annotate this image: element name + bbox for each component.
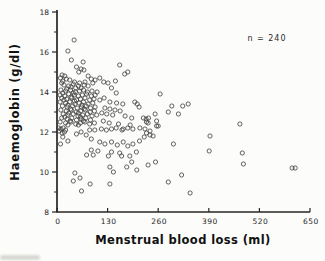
data-point: [103, 142, 107, 146]
data-point: [146, 163, 150, 167]
data-point: [89, 137, 93, 141]
data-point: [158, 92, 162, 96]
data-point: [98, 98, 102, 102]
data-point: [95, 113, 99, 117]
data-point: [72, 38, 76, 42]
caption-fragment-smudge: [0, 255, 40, 260]
data-point: [176, 112, 180, 116]
data-point: [74, 65, 78, 69]
data-point: [79, 189, 83, 193]
data-point: [207, 149, 211, 153]
data-point: [108, 100, 112, 104]
scatter-figure: 810121416180130260390520650 n = 240 Haem…: [0, 0, 325, 261]
x-tick-label: 0: [55, 217, 60, 226]
data-point: [81, 60, 85, 64]
data-point: [126, 144, 130, 148]
data-point: [92, 121, 96, 125]
data-point: [125, 165, 129, 169]
data-point: [153, 160, 157, 164]
data-point: [121, 140, 125, 144]
data-point: [115, 143, 119, 147]
data-point: [109, 150, 113, 154]
data-point: [74, 132, 78, 136]
data-point: [85, 153, 89, 157]
data-point: [71, 179, 75, 183]
y-tick-label: 12: [39, 128, 49, 137]
data-point: [93, 128, 97, 132]
data-point: [77, 70, 81, 74]
data-point: [131, 142, 135, 146]
data-point: [100, 111, 104, 115]
data-point: [78, 176, 82, 180]
data-point: [166, 110, 170, 114]
data-point: [66, 139, 70, 143]
data-point: [74, 118, 78, 122]
data-point: [188, 191, 192, 195]
data-point: [102, 80, 106, 84]
data-point: [180, 173, 184, 177]
data-point: [58, 142, 62, 146]
x-tick-label: 130: [101, 217, 117, 226]
data-point: [83, 108, 87, 112]
data-point: [88, 106, 92, 110]
y-tick-label: 10: [39, 168, 49, 177]
data-point: [91, 101, 95, 105]
data-point: [121, 102, 125, 106]
data-point: [106, 81, 110, 85]
data-point: [111, 170, 115, 174]
data-point: [238, 122, 242, 126]
data-point: [109, 86, 113, 90]
data-point: [74, 122, 78, 126]
data-point: [59, 108, 63, 112]
data-point: [73, 171, 77, 175]
data-point: [101, 119, 105, 123]
data-point: [105, 112, 109, 116]
data-point: [123, 114, 127, 118]
data-point: [126, 70, 130, 74]
data-point: [79, 130, 83, 134]
data-point: [114, 91, 118, 95]
data-point: [104, 128, 108, 132]
x-tick-label: 390: [202, 217, 218, 226]
data-point: [106, 154, 110, 158]
x-tick-label: 260: [151, 217, 167, 226]
y-axis-title: Haemoglobin (g/dl): [8, 2, 24, 222]
data-point: [58, 100, 62, 104]
data-point: [171, 142, 175, 146]
data-point: [155, 119, 159, 123]
data-point: [103, 106, 107, 110]
data-point: [90, 89, 94, 93]
data-point: [131, 127, 135, 131]
data-point: [208, 134, 212, 138]
data-point: [293, 166, 297, 170]
data-point: [58, 120, 62, 124]
data-point: [138, 126, 142, 130]
data-point: [128, 154, 132, 158]
data-point: [115, 101, 119, 105]
data-point: [109, 127, 113, 131]
data-point: [181, 104, 185, 108]
data-point: [69, 58, 73, 62]
sample-size-annotation: n = 240: [227, 34, 307, 43]
data-point: [116, 122, 120, 126]
y-tick-label: 8: [44, 208, 49, 217]
data-point: [88, 122, 92, 126]
data-point: [66, 49, 70, 53]
data-point: [126, 126, 130, 130]
data-point: [89, 148, 93, 152]
x-tick-label: 520: [252, 217, 268, 226]
data-point: [114, 126, 118, 130]
data-point: [86, 84, 90, 88]
data-point: [166, 180, 170, 184]
data-point: [88, 118, 92, 122]
y-tick-label: 16: [39, 48, 49, 57]
data-point: [84, 133, 88, 137]
x-tick-label: 650: [303, 217, 319, 226]
data-point: [118, 109, 122, 113]
data-point: [91, 153, 95, 157]
data-point: [102, 96, 106, 100]
data-point: [241, 162, 245, 166]
data-point: [93, 105, 97, 109]
data-point: [141, 116, 145, 120]
data-point: [108, 107, 112, 111]
